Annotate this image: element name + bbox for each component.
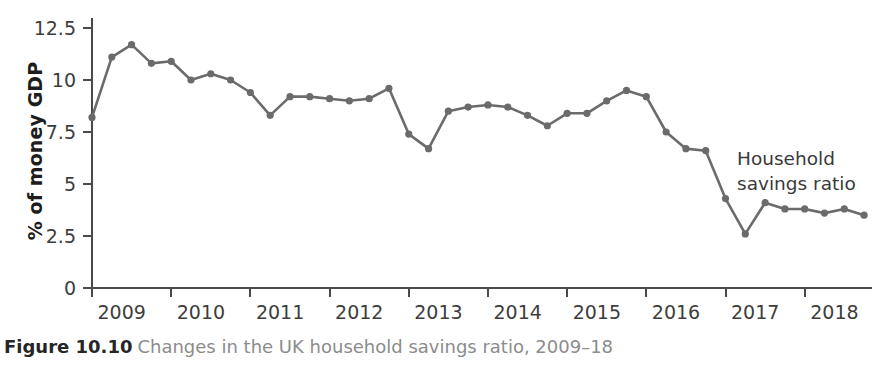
- data-point-marker: [108, 54, 115, 61]
- data-point-marker: [663, 128, 670, 135]
- data-point-marker: [385, 85, 392, 92]
- data-point-marker: [88, 114, 95, 121]
- data-point-marker: [821, 210, 828, 217]
- data-point-marker: [267, 112, 274, 119]
- data-point-marker: [781, 205, 788, 212]
- x-axis-tick-label: 2010: [177, 301, 225, 323]
- data-point-marker: [564, 110, 571, 117]
- x-axis-tick-label: 2011: [256, 301, 304, 323]
- axis-tick-marks: [83, 28, 805, 297]
- data-point-marker: [286, 93, 293, 100]
- data-point-marker: [860, 212, 867, 219]
- series-markers: [88, 41, 867, 237]
- data-point-marker: [623, 87, 630, 94]
- data-point-marker: [801, 205, 808, 212]
- data-point-marker: [187, 76, 194, 83]
- data-point-marker: [504, 103, 511, 110]
- x-axis-tick-label: 2018: [810, 301, 858, 323]
- y-axis-tick-label: 0: [64, 277, 76, 299]
- data-point-marker: [742, 230, 749, 237]
- data-point-marker: [484, 101, 491, 108]
- x-axis-tick-label: 2014: [493, 301, 541, 323]
- x-axis-tick-label: 2015: [573, 301, 621, 323]
- data-point-marker: [841, 205, 848, 212]
- figure-caption-text: Changes in the UK household savings rati…: [137, 336, 613, 357]
- x-axis-tick-labels: 2009201020112012201320142015201620172018: [98, 301, 859, 323]
- data-point-marker: [306, 93, 313, 100]
- x-axis-tick-label: 2016: [652, 301, 700, 323]
- data-point-marker: [346, 97, 353, 104]
- data-point-marker: [247, 89, 254, 96]
- y-axis-title: % of money GDP: [24, 36, 46, 266]
- y-axis-tick-label: 7.5: [46, 121, 76, 143]
- data-point-marker: [524, 112, 531, 119]
- series-annotation-label: Household savings ratio: [737, 147, 856, 197]
- data-point-marker: [445, 108, 452, 115]
- data-point-marker: [544, 122, 551, 129]
- data-point-marker: [148, 60, 155, 67]
- data-point-marker: [227, 76, 234, 83]
- figure-caption: Figure 10.10Changes in the UK household …: [4, 336, 872, 357]
- y-axis-tick-label: 10: [52, 69, 76, 91]
- data-point-marker: [465, 103, 472, 110]
- figure-caption-label: Figure 10.10: [4, 336, 132, 357]
- data-point-marker: [643, 93, 650, 100]
- figure-container: 02.557.51012.5 2009201020112012201320142…: [0, 0, 875, 371]
- data-point-marker: [326, 95, 333, 102]
- data-point-marker: [722, 195, 729, 202]
- data-point-marker: [682, 145, 689, 152]
- data-point-marker: [425, 145, 432, 152]
- data-point-marker: [128, 41, 135, 48]
- chart-area: 02.557.51012.5 2009201020112012201320142…: [0, 0, 875, 332]
- data-point-marker: [583, 110, 590, 117]
- data-point-marker: [168, 58, 175, 65]
- data-point-marker: [762, 199, 769, 206]
- x-axis-tick-label: 2013: [414, 301, 462, 323]
- x-axis-tick-label: 2009: [98, 301, 146, 323]
- data-point-marker: [702, 147, 709, 154]
- data-point-marker: [603, 97, 610, 104]
- y-axis-tick-label: 2.5: [46, 225, 76, 247]
- y-axis-tick-label: 5: [64, 173, 76, 195]
- x-axis-tick-label: 2012: [335, 301, 383, 323]
- x-axis-tick-label: 2017: [731, 301, 779, 323]
- data-point-marker: [207, 70, 214, 77]
- data-point-marker: [366, 95, 373, 102]
- data-point-marker: [405, 130, 412, 137]
